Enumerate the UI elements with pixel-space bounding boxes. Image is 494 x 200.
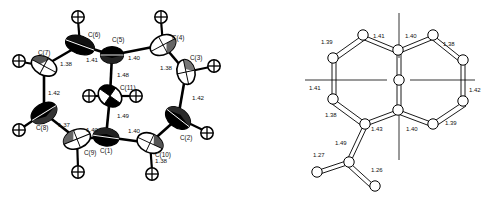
- symmetry-axes: [305, 13, 475, 160]
- bond-length-label: 1.26: [371, 167, 383, 173]
- hydrogen-atom: [72, 11, 84, 23]
- hydrogen-atom: [130, 90, 142, 102]
- atom-label: C(11): [120, 84, 136, 92]
- atom-circle: [328, 53, 338, 63]
- atom-label: C(2): [180, 134, 192, 142]
- hydrogen-atom: [13, 55, 25, 67]
- atom-ellipsoid: [101, 47, 124, 64]
- bond-length-label: 1.38: [60, 60, 73, 67]
- atom-circle: [328, 94, 338, 104]
- atom-label: C(5): [112, 36, 124, 44]
- atom-circle: [370, 181, 380, 191]
- bond-length-label: 1.42: [48, 89, 61, 96]
- bond-length-label: 1.40: [86, 126, 99, 133]
- bond-length-label: 1.37: [58, 121, 71, 128]
- bond-length-label: 1.49: [117, 112, 130, 119]
- bond-length-label: 1.42: [192, 94, 205, 101]
- bond-length-label: 1.40: [406, 126, 418, 132]
- bond-rod: [461, 61, 465, 100]
- bond-length-label: 1.38: [155, 157, 168, 164]
- hydrogen-atom: [83, 90, 95, 102]
- atom-label: C(1): [100, 147, 112, 155]
- atom-label: C(3): [190, 54, 202, 62]
- bond-rod: [319, 161, 347, 174]
- bond-length-label: 1.41: [86, 56, 99, 63]
- right-structure-svg: 1.39 1.41 1.40 1.38 1.41 1.42 1.38 1.43 …: [247, 0, 494, 200]
- atom-label: C(7): [38, 49, 50, 57]
- atom-circle: [360, 119, 370, 129]
- bond-length-skeleton-plot: 1.39 1.41 1.40 1.38 1.41 1.42 1.38 1.43 …: [247, 0, 494, 200]
- atom-circle: [312, 167, 322, 177]
- atom-label: C(8): [36, 124, 48, 132]
- bond-length-label: 1.41: [309, 85, 321, 91]
- hydrogen-atom: [155, 11, 167, 23]
- atom-circle: [428, 30, 438, 40]
- bond-rod: [332, 59, 336, 98]
- bond-length-label: 1.39: [321, 39, 333, 45]
- bond-length-label: 1.38: [443, 41, 455, 47]
- bond-length-label: 1.39: [445, 120, 457, 126]
- atom-circle: [428, 119, 438, 129]
- bond-length-label: 1.38: [325, 112, 337, 118]
- atom-circle: [458, 96, 468, 106]
- skeleton-atoms: [312, 30, 468, 191]
- atom-label: C(6): [88, 31, 100, 39]
- bond-length-label: 1.40: [405, 33, 417, 39]
- hydrogen-atom: [13, 124, 25, 136]
- bond-rod: [348, 126, 367, 159]
- bond-length-label: 1.49: [335, 140, 347, 146]
- atom-circle: [358, 30, 368, 40]
- atom-label: C(4): [172, 34, 184, 42]
- bond-length-label: 1.41: [373, 33, 385, 39]
- bond-length-label: 1.27: [313, 152, 325, 158]
- atom-circle: [393, 45, 403, 55]
- bond-rod: [348, 164, 373, 187]
- atom-circle: [458, 55, 468, 65]
- atom-circle: [344, 157, 354, 167]
- bond-length-label: 1.38: [160, 64, 173, 71]
- bond-length-label: 1.43: [371, 126, 383, 132]
- atom-ellipsoid: [28, 52, 60, 81]
- atom-circle: [393, 105, 403, 115]
- hydrogen-atom: [201, 127, 213, 139]
- hydrogen-atom: [208, 60, 220, 72]
- bond-length-label: 1.40: [128, 127, 141, 134]
- bond-length-label: 1.42: [469, 87, 481, 93]
- hydrogen-atom: [146, 168, 158, 180]
- bond-length-label: 1.40: [128, 54, 141, 61]
- hydrogen-atom: [72, 166, 84, 178]
- ortep-figure: C(6) C(5) C(4) C(3) C(7) C(11) C(2) C(8)…: [0, 0, 494, 200]
- atom-label: C(9): [84, 149, 96, 157]
- atom-circle: [394, 75, 404, 85]
- bond-length-label: 1.48: [117, 71, 130, 78]
- left-structure-svg: C(6) C(5) C(4) C(3) C(7) C(11) C(2) C(8)…: [0, 0, 247, 200]
- thermal-ellipsoid-plot: C(6) C(5) C(4) C(3) C(7) C(11) C(2) C(8)…: [0, 0, 247, 200]
